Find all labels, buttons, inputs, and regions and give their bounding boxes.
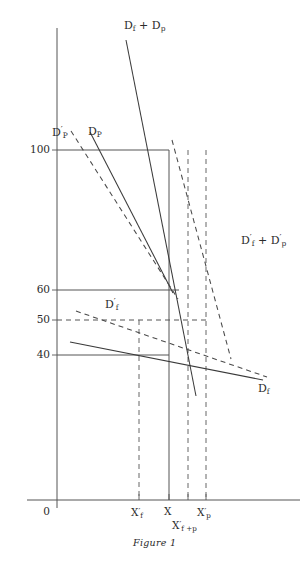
figure-caption: Figure 1 <box>133 538 176 548</box>
curve-label-Df-prime-plus-Dp-prime: D′f + D′p <box>241 234 286 247</box>
y-tick-marks <box>52 150 57 355</box>
curves-solid <box>70 40 263 396</box>
y-tick-label-40: 40 <box>18 349 50 360</box>
curve-Df-prime <box>76 311 267 377</box>
x-tick-label-X: X <box>164 506 171 517</box>
x-tick-label-Xf-prime: X′f <box>131 506 143 519</box>
curve-Df <box>70 342 263 380</box>
curve-Dp-prime <box>71 131 178 299</box>
vertical-drop-dashed <box>139 150 206 500</box>
x-tick-label-Xp-prime: X′p <box>197 506 211 519</box>
curve-label-Df: Df <box>258 383 270 396</box>
curve-label-Df-prime: D′f <box>105 298 119 311</box>
curve-Df-plus-Dp <box>126 40 196 396</box>
curve-Df-prime-plus-Dp-prime <box>172 140 231 359</box>
axes-group <box>27 28 300 508</box>
y-tick-label-100: 100 <box>18 144 50 155</box>
y-tick-label-60: 60 <box>18 284 50 295</box>
origin-label: 0 <box>18 506 50 517</box>
curve-label-Df-plus-Dp: Df + Dp <box>124 20 165 33</box>
curve-Dp <box>90 132 173 293</box>
horizontal-reference-lines <box>57 150 179 355</box>
figure-1-diagram: 100 60 50 40 0 X′f X X′f +p X′p Df + Dp … <box>0 0 307 569</box>
x-tick-label-Xfp-prime: X′f +p <box>172 519 197 532</box>
y-tick-label-50: 50 <box>18 314 50 325</box>
curve-label-Dp-prime: D′P <box>52 126 68 139</box>
x-tick-marks <box>139 494 206 500</box>
curve-label-Dp: DP <box>88 126 102 139</box>
